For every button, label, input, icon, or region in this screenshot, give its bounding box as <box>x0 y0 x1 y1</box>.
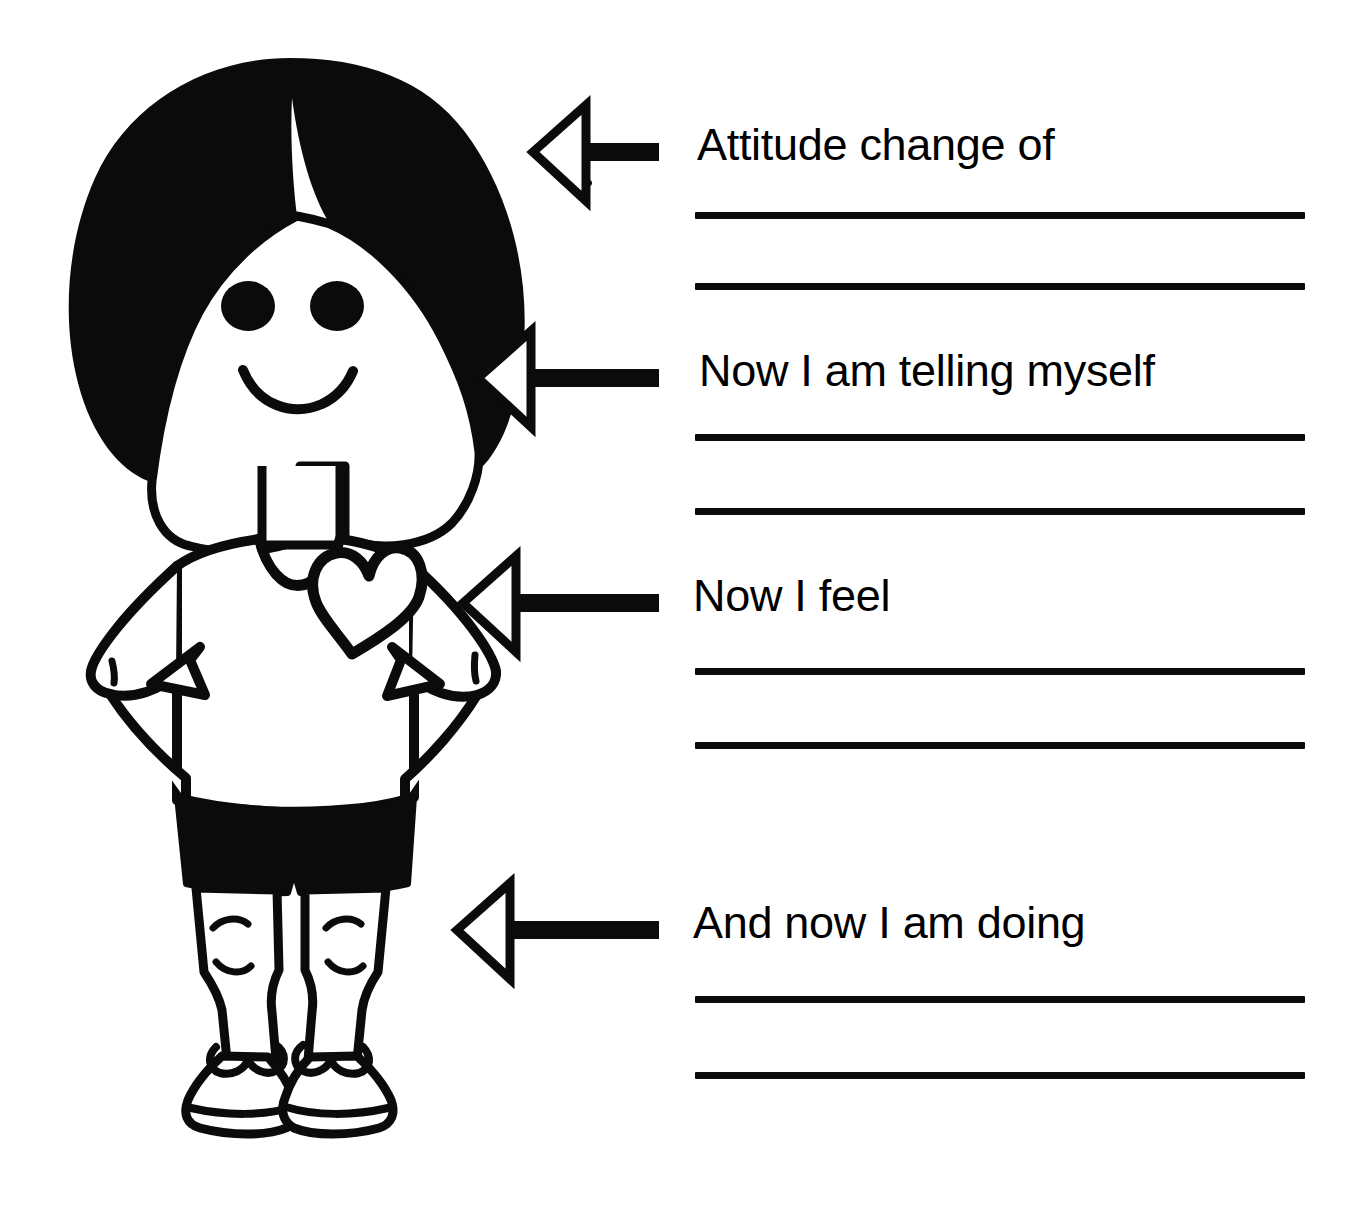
writing-line-now-telling-myself-1[interactable] <box>695 434 1305 441</box>
arrow-now-i-feel <box>463 556 659 652</box>
writing-line-now-telling-myself-2[interactable] <box>695 508 1305 515</box>
prompt-label-attitude-change: Attitude change of <box>697 122 1054 167</box>
arrow-now-telling-myself <box>478 331 659 427</box>
prompt-label-now-telling-myself: Now I am telling myself <box>699 348 1155 393</box>
prompt-label-now-i-feel: Now I feel <box>693 573 890 618</box>
writing-line-now-i-feel-1[interactable] <box>695 668 1305 675</box>
arrow-group <box>0 0 1366 1213</box>
writing-line-attitude-change-1[interactable] <box>695 212 1305 219</box>
worksheet-page: Attitude change of Now I am telling myse… <box>0 0 1366 1213</box>
arrow-attitude-change <box>533 105 659 201</box>
writing-line-and-now-doing-2[interactable] <box>695 1072 1305 1079</box>
writing-line-and-now-doing-1[interactable] <box>695 996 1305 1003</box>
writing-line-attitude-change-2[interactable] <box>695 283 1305 290</box>
arrow-and-now-doing <box>457 883 659 979</box>
prompt-label-and-now-doing: And now I am doing <box>693 900 1085 945</box>
writing-line-now-i-feel-2[interactable] <box>695 742 1305 749</box>
